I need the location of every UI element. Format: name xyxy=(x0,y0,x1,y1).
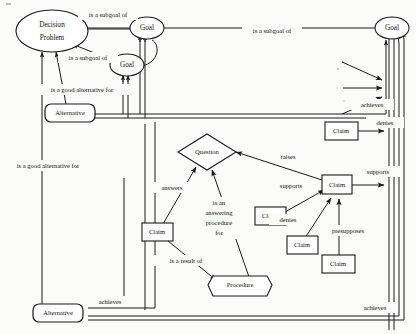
edge-label-supports-right: supports xyxy=(367,168,390,175)
edge-label-achieves-right: achieves xyxy=(361,101,384,108)
node-goal-mid-label: Goal xyxy=(120,61,134,69)
node-decision-problem-label-2: Problem xyxy=(40,34,65,42)
edge-label-good-alternative-left: is a good alternative for xyxy=(17,162,80,169)
edge-claim-answers-question xyxy=(163,167,196,224)
rationale-diagram: Decision Problem Goal Goal Goal Alternat… xyxy=(0,0,416,334)
edge-label-answering-line-2: answering xyxy=(205,209,233,216)
node-goal-top-label: Goal xyxy=(140,24,154,32)
node-claim-main[interactable]: Claim xyxy=(322,175,352,194)
node-question-label: Question xyxy=(195,148,220,155)
edge-label-achieves-bottom-right: achieves xyxy=(364,304,387,311)
edge-label-raises: raises xyxy=(280,153,295,160)
node-alternative-top[interactable]: Alternative xyxy=(45,104,95,122)
node-alternative-bottom[interactable]: Alternative xyxy=(33,304,83,322)
node-claim-denies[interactable]: Claim xyxy=(287,236,318,254)
node-claim-denies-top-label: Claim xyxy=(333,127,350,134)
node-claim-presupposes[interactable]: Claim xyxy=(322,255,355,273)
node-procedure-label: Procedure xyxy=(227,281,254,288)
edge-achieves-arrow-1 xyxy=(342,62,382,80)
edge-claim-supports xyxy=(285,190,324,212)
edge-label-answering-line-4: for xyxy=(215,229,223,236)
node-question[interactable]: Question xyxy=(178,134,236,170)
edge-goal-mid-curve-to-goal-top xyxy=(142,40,157,66)
node-goal-right[interactable]: Goal xyxy=(375,17,409,39)
node-claim-answers-label: Claim xyxy=(149,228,166,235)
node-goal-top[interactable]: Goal xyxy=(130,17,164,39)
node-claim-presupposes-label: Claim xyxy=(330,260,347,267)
node-procedure[interactable]: Procedure xyxy=(208,276,272,296)
edge-label-denies-top: denies xyxy=(377,119,394,126)
edge-label-denies-mid: denies xyxy=(280,216,297,223)
node-alternative-top-label: Alternative xyxy=(55,109,85,116)
edge-label-answers: answers xyxy=(161,184,183,191)
node-decision-problem-label-1: Decision xyxy=(39,21,65,29)
edge-label-is-result-of: is a result of xyxy=(170,257,203,264)
node-claim-main-label: Claim xyxy=(329,181,346,188)
node-claim-answers[interactable]: Claim xyxy=(142,223,173,241)
node-decision-problem[interactable]: Decision Problem xyxy=(16,10,88,52)
node-alternative-bottom-label: Alternative xyxy=(43,309,73,316)
edge-label-presupposes: presupposes xyxy=(332,227,365,234)
edge-label-is-subgoal-of-right: is a subgoal of xyxy=(253,27,292,34)
edge-label-achieves-bottom: achieves xyxy=(99,298,122,305)
edge-label-good-alternative-top: is a good alternative for xyxy=(51,86,114,93)
edge-label-answering-line-1: is an xyxy=(213,199,226,206)
node-claim-denies-label: Claim xyxy=(294,241,311,248)
edge-label-answering-line-3: procedure xyxy=(206,219,232,226)
edge-label-supports-left: supports xyxy=(280,182,303,189)
node-claim-denies-top[interactable]: Claim xyxy=(325,122,358,140)
diagram-canvas: Decision Problem Goal Goal Goal Alternat… xyxy=(0,0,416,334)
edge-label-is-subgoal-of-top: is a subgoal of xyxy=(89,11,128,18)
edge-label-is-subgoal-of-mid: is a subgoal of xyxy=(69,54,108,61)
node-goal-right-label: Goal xyxy=(385,24,399,32)
